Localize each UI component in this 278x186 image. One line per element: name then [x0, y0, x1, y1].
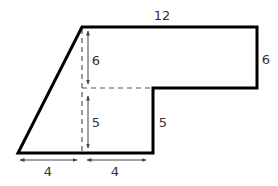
- lower-inner-height-label: 5: [92, 115, 100, 130]
- right-height-label: 6: [262, 52, 270, 67]
- shape-outline: [18, 27, 257, 153]
- composite-shape-diagram: 12 6 6 5 5 4 4: [0, 0, 278, 186]
- upper-inner-height-label: 6: [92, 53, 100, 68]
- bottom-left-width-label: 4: [44, 164, 52, 179]
- top-width-label: 12: [154, 8, 171, 23]
- step-height-label: 5: [159, 115, 167, 130]
- bottom-right-width-label: 4: [111, 164, 119, 179]
